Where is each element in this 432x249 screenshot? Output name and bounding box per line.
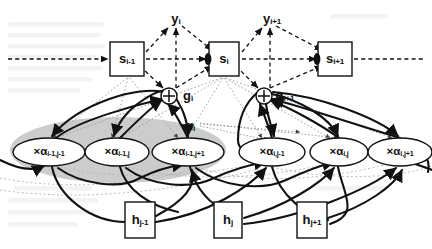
- alpha-node-i-j-plus-1[interactable]: ×αi,j+1: [387, 146, 414, 159]
- h-node-j-minus-1[interactable]: hj-1: [132, 213, 149, 228]
- gate-label-g-i-plus-1: gi+1: [276, 89, 295, 104]
- alpha-node-i-j-1[interactable]: ×αi,j-1: [259, 146, 284, 159]
- alpha-node-i-1-j-plus-1[interactable]: ×αi-1,j+1: [172, 146, 205, 159]
- alpha-node-i-j[interactable]: ×αi,j: [329, 146, 348, 159]
- state-node-s-i[interactable]: si: [219, 52, 228, 67]
- figure-canvas: yi yi+1 si-1 si si+1 gi gi+1 αi ×αi-1,j-…: [0, 0, 432, 249]
- output-label-y-i-plus-1: yi+1: [263, 12, 281, 27]
- gate-label-g-i: gi: [183, 89, 193, 104]
- alpha-node-i-1-j[interactable]: ×αi-1,j: [104, 146, 129, 159]
- state-node-s-i-minus-1[interactable]: si-1: [119, 52, 135, 67]
- alpha-group-annotation: αi: [185, 119, 195, 134]
- alpha-node-i-1-j-1[interactable]: ×αi-1,j-1: [33, 146, 64, 159]
- state-node-s-i-plus-1[interactable]: si+1: [326, 52, 344, 67]
- diagram-svg: [0, 0, 432, 249]
- output-label-y-i: yi: [171, 12, 180, 27]
- h-node-j[interactable]: hj: [223, 213, 233, 228]
- h-node-j-plus-1[interactable]: hj+1: [303, 213, 322, 228]
